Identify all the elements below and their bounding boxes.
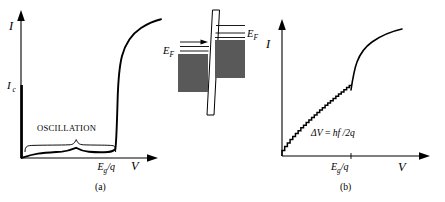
right-energy-levels <box>215 26 245 38</box>
panel-a-iv-curve <box>22 19 162 158</box>
panel-b-step-formula: ΔV = hf /2q <box>310 127 355 138</box>
figure-canvas: I I c OSCILLATION E g /q V (a) <box>0 0 445 202</box>
left-energy-levels <box>180 47 209 52</box>
critical-current-symbol: I <box>6 79 12 91</box>
fermi-right-subscript: F <box>253 33 259 42</box>
panel-a: I I c OSCILLATION E g /q V (a) <box>6 10 161 193</box>
gap-voltage-tail-b: /q <box>340 161 349 172</box>
panel-b-above-gap-curve <box>351 29 402 90</box>
right-electrode-band <box>215 40 245 78</box>
panel-b-y-axis <box>278 19 286 156</box>
panel-b: I ΔV = hf /2q E g /q V (b) <box>265 19 430 193</box>
panel-b-y-axis-label: I <box>265 37 271 51</box>
panel-b-x-axis <box>282 152 430 160</box>
panel-a-gap-voltage-label: E g /q <box>97 161 115 175</box>
tunneling-arrow-icon <box>180 39 208 44</box>
band-diagram-inset: E F E F <box>162 10 259 115</box>
gap-voltage-symbol-b: E <box>330 161 337 172</box>
fermi-left-subscript: F <box>169 50 175 59</box>
panel-b-shapiro-staircase <box>282 85 352 156</box>
figure-root: I I c OSCILLATION E g /q V (a) <box>0 0 445 202</box>
formula-equals: = <box>323 127 333 138</box>
gap-voltage-symbol: E <box>97 161 104 172</box>
fermi-level-right-label: E F <box>246 28 259 42</box>
panel-a-critical-current-label: I c <box>6 79 17 94</box>
gap-voltage-tail: /q <box>106 161 115 172</box>
formula-tail: /2q <box>340 127 355 138</box>
svg-text:ΔV = hf /2q: ΔV = hf /2q <box>310 127 355 138</box>
panel-b-caption: (b) <box>340 181 351 193</box>
panel-a-oscillation-label: OSCILLATION <box>37 123 97 133</box>
panel-a-y-axis-label: I <box>8 19 14 33</box>
panel-b-gap-voltage-label: E g /q <box>330 161 348 175</box>
fermi-level-left-label: E F <box>162 45 175 59</box>
critical-current-subscript: c <box>13 85 17 94</box>
left-electrode-band <box>178 54 208 92</box>
panel-b-x-axis-label: V <box>398 160 407 174</box>
panel-a-caption: (a) <box>95 181 106 193</box>
panel-a-x-axis-label: V <box>131 159 140 173</box>
